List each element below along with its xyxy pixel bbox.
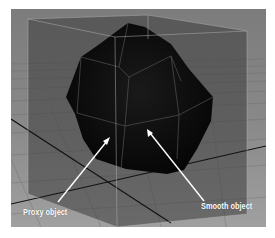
proxy-object-label: Proxy object	[23, 207, 67, 217]
scene-render	[11, 9, 266, 227]
viewport-figure: Proxy object Smooth object	[11, 9, 266, 227]
smooth-object-label: Smooth object	[201, 201, 252, 211]
